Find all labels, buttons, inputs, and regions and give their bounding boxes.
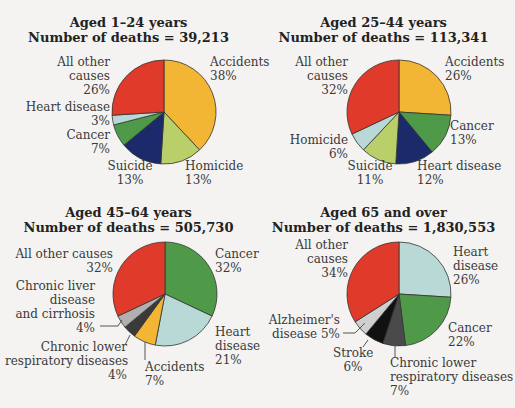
chart-aged-1-24: Aged 1–24 years Number of deaths = 39,21…	[0, 0, 257, 204]
value-heart-disease: 26%	[453, 273, 480, 287]
label-heart-disease: Heart disease	[26, 100, 110, 114]
label-other: All other causes	[15, 247, 113, 261]
value-homicide: 13%	[185, 173, 212, 187]
label-heart-disease-2: disease	[453, 259, 498, 273]
value-other: 26%	[83, 83, 110, 97]
label-heart-disease: Heart disease	[417, 159, 501, 173]
label-alzheimers: Alzheimer's	[269, 313, 340, 327]
value-suicide: 11%	[357, 173, 384, 187]
label-clrd-2: respiratory diseases	[5, 354, 128, 368]
label-cancer: Cancer	[448, 321, 492, 335]
label-liver-2: disease	[50, 293, 95, 307]
label-suicide: Suicide	[347, 159, 392, 173]
label-clrd-2: respiratory diseases	[390, 370, 513, 384]
chart-aged-25-44: Aged 25–44 years Number of deaths = 113,…	[255, 0, 512, 204]
label-suicide: Suicide	[107, 159, 152, 173]
pie-slice-accidents	[399, 60, 451, 115]
value-clrd: 4%	[108, 368, 127, 382]
chart-aged-65-over: Aged 65 and over Number of deaths = 1,83…	[255, 195, 512, 399]
value-liver: 4%	[76, 321, 95, 335]
value-clrd: 7%	[390, 384, 409, 398]
label-stroke: Stroke	[333, 346, 373, 360]
value-other: 32%	[321, 83, 348, 97]
label-liver: Chronic liver	[16, 279, 95, 293]
label-alzheimers-2: disease 5%	[272, 327, 340, 341]
label-homicide: Homicide	[185, 159, 243, 173]
value-heart-disease: 12%	[417, 173, 444, 187]
value-other: 34%	[321, 266, 348, 280]
label-heart-disease: Heart	[215, 325, 250, 339]
label-heart-disease: Heart	[453, 245, 488, 259]
label-other: All other	[57, 55, 110, 69]
label-clrd: Chronic lower	[41, 340, 127, 354]
label-other-2: causes	[69, 69, 110, 83]
label-homicide: Homicide	[290, 133, 348, 147]
value-accidents: 7%	[145, 374, 164, 388]
value-cancer: 22%	[448, 335, 475, 349]
value-other: 32%	[86, 261, 113, 275]
pie-slice-all-other-causes	[112, 60, 164, 115]
label-other-2: causes	[307, 69, 348, 83]
label-accidents: Accidents	[145, 360, 204, 374]
value-heart-disease: 3%	[91, 114, 110, 128]
value-accidents: 26%	[445, 69, 472, 83]
value-suicide: 13%	[117, 173, 144, 187]
label-liver-3: and cirrhosis	[15, 307, 95, 321]
label-cancer: Cancer	[450, 119, 494, 133]
label-other: All other	[295, 238, 348, 252]
label-other-2: causes	[307, 252, 348, 266]
value-cancer: 32%	[215, 261, 242, 275]
label-cancer: Cancer	[66, 128, 110, 142]
label-accidents: Accidents	[445, 55, 504, 69]
value-accidents: 38%	[210, 69, 237, 83]
chart-aged-45-64: Aged 45–64 years Number of deaths = 505,…	[0, 195, 257, 399]
label-heart-disease-2: disease	[215, 339, 260, 353]
value-cancer: 7%	[91, 142, 110, 156]
value-stroke: 6%	[343, 360, 362, 374]
label-clrd: Chronic lower	[390, 356, 476, 370]
label-other: All other	[295, 55, 348, 69]
label-cancer: Cancer	[215, 247, 259, 261]
value-cancer: 13%	[450, 133, 477, 147]
value-homicide: 6%	[329, 147, 348, 161]
value-heart-disease: 21%	[215, 353, 242, 367]
